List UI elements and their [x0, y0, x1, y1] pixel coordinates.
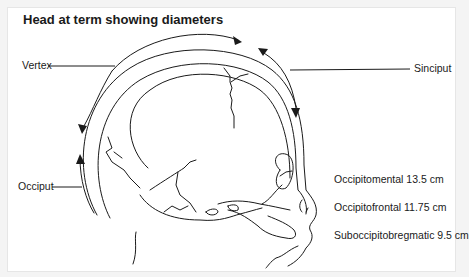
sinciput-leader-line: [290, 69, 410, 70]
sinciput-label: Sinciput: [414, 62, 451, 74]
occiput-label: Occiput: [18, 180, 54, 192]
diameter-occipitomental: Occipitomental 13.5 cm: [334, 173, 444, 185]
diameter-occipitofrontal: Occipitofrontal 11.75 cm: [334, 201, 446, 213]
diameter-suboccipitobregmatic: Suboccipitobregmatic 9.5 cm: [334, 229, 469, 241]
vertex-label: Vertex: [22, 59, 52, 71]
